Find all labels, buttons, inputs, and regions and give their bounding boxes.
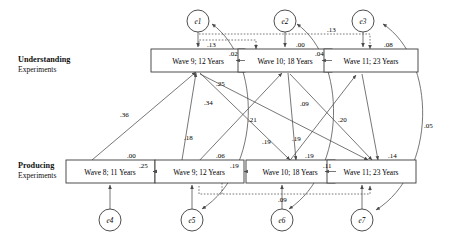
group-title-producing: Producing (18, 161, 55, 170)
coef-p8-p9: .25 (139, 162, 148, 170)
circle-e1-label: e1 (195, 18, 202, 26)
circle-e7-label: e7 (359, 217, 366, 225)
coef-p10-u11: .19 (262, 138, 271, 146)
coef-p9-u9: .18 (184, 134, 193, 142)
box-p11-label: Wave 11; 23 Years (344, 168, 399, 177)
coef-u9-p10: .25 (216, 80, 225, 88)
coef-u10-u11: .04 (315, 50, 324, 58)
path-diagram-figure: Understanding Experiments Producing Expe… (0, 0, 450, 239)
coef-p8-variance: .00 (127, 152, 136, 160)
coef-p8-u9: .36 (120, 111, 129, 119)
edge-u9-to-p10 (200, 73, 290, 160)
coef-u10-p10: .19 (292, 135, 301, 143)
box-p8-label: Wave 8; 11 Years (84, 168, 135, 177)
coef-u9-p11: .34 (204, 99, 213, 107)
edge-p9-to-u10 (198, 73, 282, 162)
group-title-understanding: Understanding (18, 55, 71, 64)
coef-p10-p11: .11 (323, 162, 332, 170)
box-u10-label: Wave 10; 18 Years (257, 57, 312, 66)
coef-u10-p11: .09 (300, 100, 309, 108)
edge-u11-to-p11 (362, 74, 378, 160)
circle-e2-label: e2 (282, 18, 289, 26)
coef-u9-u10: .02 (229, 50, 238, 58)
box-u9-label: Wave 9; 12 Years (172, 57, 224, 66)
edge-u10-to-p10 (288, 73, 296, 160)
coef-p11-variance: .14 (388, 152, 397, 160)
coef-u11-p11: .20 (338, 116, 347, 124)
diagram-canvas: Understanding Experiments Producing Expe… (0, 0, 450, 239)
box-u11-label: Wave 11; 23 Years (344, 57, 399, 66)
coef-p9-variance: .06 (216, 152, 225, 160)
box-p9-label: Wave 9; 12 Years (173, 168, 225, 177)
coef-p9-u10: .21 (248, 116, 257, 124)
coef-u9-variance: .13 (207, 41, 216, 49)
group-subtitle-understanding: Experiments (18, 65, 56, 74)
edge-u10-to-p11 (290, 74, 372, 160)
group-subtitle-producing: Experiments (18, 171, 56, 180)
coef-u10-variance: .00 (296, 41, 305, 49)
coef-u11-variance: .08 (384, 41, 393, 49)
coef-p9-p10: .19 (230, 162, 239, 170)
edge-p9-to-u9 (182, 73, 196, 160)
coef-p10-variance: .19 (305, 152, 314, 160)
coef-u9-u11-dashed: .13 (327, 26, 336, 34)
circle-e6-label: e6 (279, 217, 286, 225)
circle-e3-label: e3 (360, 18, 367, 26)
box-p10-label: Wave 10; 18 Years (262, 168, 317, 177)
circle-e4-label: e4 (107, 217, 114, 225)
edge-p8-to-u9 (92, 72, 196, 160)
circle-e5-label: e5 (189, 217, 196, 225)
coef-e3-e7-correlation: .05 (424, 122, 433, 130)
coef-p9-p11-dashed: .09 (278, 196, 287, 204)
